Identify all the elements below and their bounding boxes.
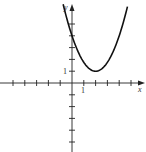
parabola-curve [63,4,127,71]
chart-plot: y x 1 1 [0,0,146,152]
y-axis-arrow-icon [70,4,75,11]
x-axis-label: x [137,85,142,94]
x-tick-label-1: 1 [81,86,85,95]
y-axis-label: y [63,3,68,12]
y-tick-label-1: 1 [63,67,67,76]
